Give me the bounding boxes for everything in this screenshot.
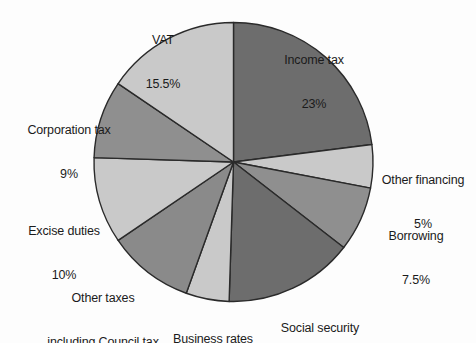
- pie-label-other-financing-name: Other financing: [371, 173, 475, 188]
- pie-label-business-rates-name: Business rates: [154, 332, 272, 343]
- pie-label-income-tax-name: Income tax: [249, 53, 379, 68]
- pie-label-corporation-tax: Corporation tax 9%: [6, 94, 132, 210]
- pie-label-social-security: Social security contributions 15%: [254, 292, 386, 343]
- pie-label-income-tax-value: 23%: [249, 97, 379, 112]
- pie-label-business-rates: Business rates 5%: [154, 303, 272, 343]
- pie-label-borrowing-value: 7.5%: [364, 273, 468, 288]
- pie-label-income-tax: Income tax 23%: [249, 24, 379, 140]
- pie-label-corporation-tax-value: 9%: [6, 167, 132, 182]
- pie-label-excise-duties-name: Excise duties: [2, 224, 126, 239]
- pie-label-vat-name: VAT: [98, 33, 228, 48]
- pie-label-borrowing-name: Borrowing: [364, 229, 468, 244]
- pie-chart-figure: VAT 15.5% Income tax 23% Corporation tax…: [0, 0, 476, 343]
- pie-label-social-security-line1: Social security: [254, 321, 386, 336]
- pie-label-vat-value: 15.5%: [98, 77, 228, 92]
- pie-label-corporation-tax-name: Corporation tax: [6, 123, 132, 138]
